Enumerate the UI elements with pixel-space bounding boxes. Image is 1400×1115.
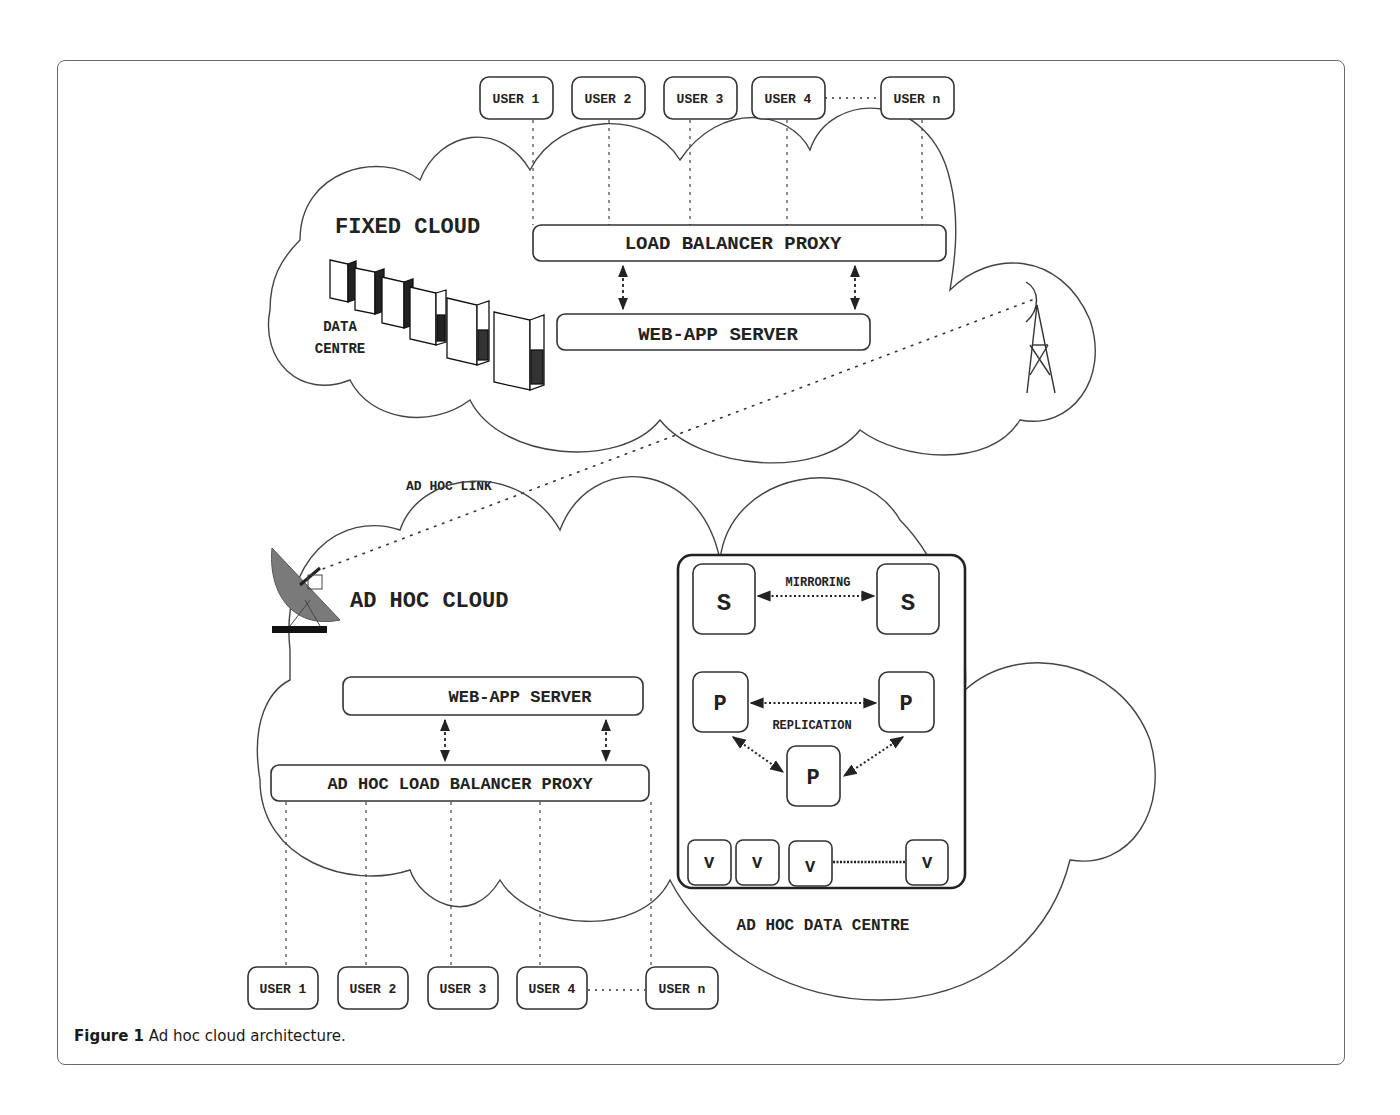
- fixed-web-app-server[interactable]: WEB-APP SERVER: [557, 314, 870, 350]
- user-label: USER 3: [677, 92, 724, 107]
- node-label: V: [922, 854, 933, 873]
- node-label: P: [806, 766, 819, 791]
- fixed-cloud-title: FIXED CLOUD: [335, 215, 480, 240]
- processing-node[interactable]: P: [879, 672, 934, 732]
- adhoc-user-box[interactable]: USER n: [646, 967, 718, 1009]
- user-label: USER 4: [529, 982, 576, 997]
- radio-tower-icon: [1026, 282, 1055, 393]
- user-label: USER 1: [493, 92, 540, 107]
- user-label: USER n: [894, 92, 941, 107]
- data-centre-label: DATA: [323, 319, 357, 335]
- processing-node[interactable]: P: [787, 746, 840, 806]
- fixed-user-box[interactable]: USER 4: [752, 77, 825, 119]
- fixed-user-box[interactable]: USER 1: [480, 77, 553, 119]
- fixed-user-box[interactable]: USER 2: [572, 77, 645, 119]
- user-label: USER 4: [765, 92, 812, 107]
- node-label: V: [704, 854, 715, 873]
- adhoc-user-links: [286, 802, 651, 967]
- adhoc-web-app-server[interactable]: WEB-APP SERVER: [343, 677, 643, 715]
- adhoc-user-box[interactable]: USER 1: [248, 967, 318, 1009]
- adhoc-cloud-users: USER 1 USER 2 USER 3 USER 4 USER n: [248, 967, 718, 1009]
- fixed-user-box[interactable]: USER n: [881, 77, 954, 119]
- node-label: V: [805, 858, 816, 877]
- user-label: USER n: [659, 982, 706, 997]
- node-label: S: [901, 590, 915, 617]
- load-balancer-label: LOAD BALANCER PROXY: [625, 233, 842, 255]
- vm-node[interactable]: V: [789, 841, 832, 886]
- fixed-load-balancer-proxy[interactable]: LOAD BALANCER PROXY: [533, 225, 946, 261]
- caption-label: Figure 1: [74, 1027, 144, 1045]
- adhoc-lb-server-arrows: [445, 720, 606, 761]
- fixed-cloud-users: USER 1 USER 2 USER 3 USER 4 USER n: [480, 77, 954, 119]
- node-label: P: [713, 692, 726, 717]
- data-centre-label: CENTRE: [315, 341, 365, 357]
- figure-caption: Figure 1 Ad hoc cloud architecture.: [74, 1027, 346, 1045]
- user-label: USER 3: [440, 982, 487, 997]
- mirroring-label: MIRRORING: [786, 576, 851, 590]
- adhoc-user-box[interactable]: USER 3: [428, 967, 498, 1009]
- load-balancer-label: AD HOC LOAD BALANCER PROXY: [327, 775, 593, 794]
- server-racks-icon: [330, 260, 544, 390]
- web-app-server-label: WEB-APP SERVER: [638, 324, 798, 346]
- satellite-dish-icon: [272, 548, 340, 633]
- node-label: P: [899, 692, 912, 717]
- adhoc-cloud-title: AD HOC CLOUD: [350, 589, 508, 614]
- fixed-user-links: [533, 120, 922, 225]
- node-label: S: [717, 590, 731, 617]
- user-label: USER 2: [350, 982, 397, 997]
- adhoc-load-balancer-proxy[interactable]: AD HOC LOAD BALANCER PROXY: [271, 765, 649, 801]
- caption-text: Ad hoc cloud architecture.: [149, 1027, 346, 1045]
- vm-node[interactable]: V: [736, 840, 779, 885]
- ad-hoc-cloud-architecture-diagram: USER 1 USER 2 USER 3 USER 4 USER n FIXED…: [0, 0, 1400, 1115]
- web-app-server-label: WEB-APP SERVER: [449, 688, 593, 707]
- user-label: USER 1: [260, 982, 307, 997]
- replication-label: REPLICATION: [772, 719, 851, 733]
- processing-node[interactable]: P: [693, 672, 748, 732]
- node-label: V: [752, 854, 763, 873]
- adhoc-data-centre-title: AD HOC DATA CENTRE: [737, 917, 910, 935]
- vm-node[interactable]: V: [688, 840, 731, 885]
- fixed-user-box[interactable]: USER 3: [664, 77, 737, 119]
- storage-node[interactable]: S: [877, 564, 939, 634]
- storage-node[interactable]: S: [693, 564, 755, 634]
- adhoc-user-box[interactable]: USER 4: [517, 967, 587, 1009]
- fixed-lb-server-arrows: [623, 266, 855, 309]
- adhoc-data-centre: S S MIRRORING P P P REPLICATION V: [678, 555, 965, 888]
- vm-node[interactable]: V: [906, 840, 948, 885]
- adhoc-user-box[interactable]: USER 2: [338, 967, 408, 1009]
- user-label: USER 2: [585, 92, 632, 107]
